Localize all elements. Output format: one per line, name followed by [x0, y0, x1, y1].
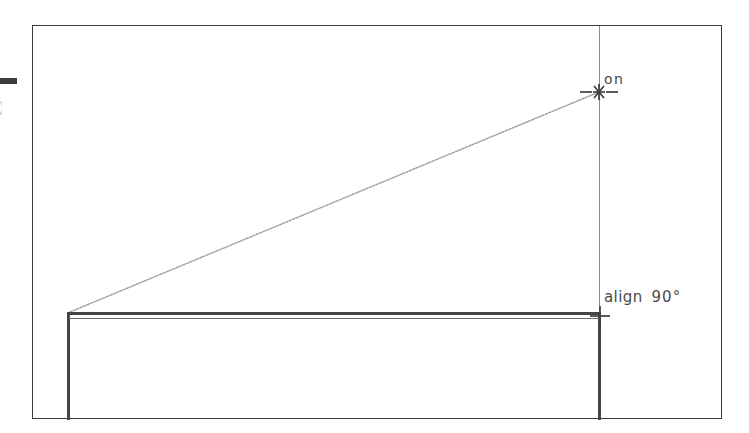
snap-label-align-value: 90° — [652, 288, 682, 306]
clipped-margin-glyph: 0 — [0, 98, 2, 118]
rectangle-top-edge-highlight — [69, 318, 600, 319]
snap-label-on: on — [604, 71, 624, 87]
cad-drawing-canvas[interactable]: 0 on align90° — [0, 0, 749, 433]
vertical-extension-line — [599, 26, 600, 318]
snap-label-align-prefix: align — [604, 288, 643, 306]
rectangle-entity[interactable] — [67, 312, 601, 420]
clipped-margin-dash-icon — [0, 78, 17, 84]
snap-label-align: align90° — [604, 288, 681, 306]
